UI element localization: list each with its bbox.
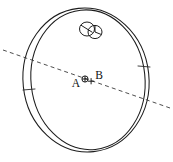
ring-outer-ellipse <box>16 2 156 158</box>
band-cap-left <box>23 89 35 90</box>
figure-container: A B <box>0 0 173 162</box>
label-b: B <box>95 69 103 81</box>
diagram-canvas: A B <box>0 0 173 162</box>
small-circles-group <box>80 22 103 39</box>
ring-group <box>16 2 156 158</box>
small-circle-radius-right <box>95 32 102 35</box>
center-markers-group <box>82 76 94 84</box>
marker-plus <box>88 78 94 84</box>
label-a: A <box>72 77 81 89</box>
band-cap-right <box>138 66 150 67</box>
